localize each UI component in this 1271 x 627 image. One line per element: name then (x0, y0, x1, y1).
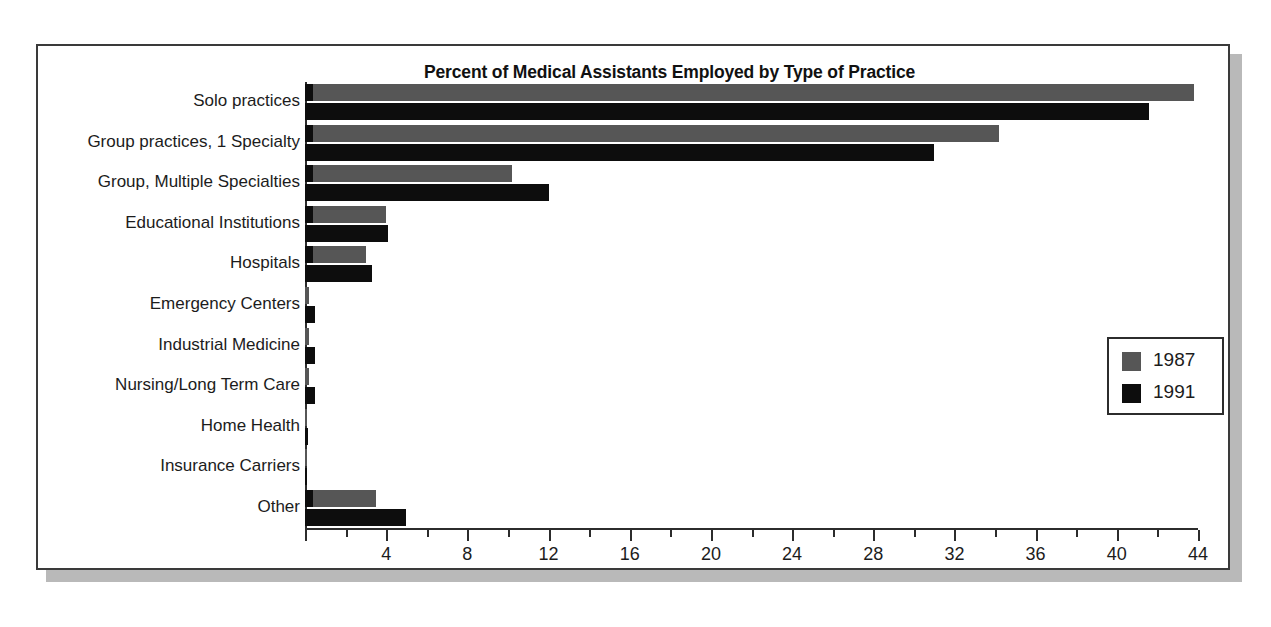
value-axis-tick-label: 24 (782, 544, 802, 565)
tick-major (792, 530, 794, 541)
value-axis-tick-label: 36 (1026, 544, 1046, 565)
plot-area: 48121620242832364044 (305, 82, 1198, 562)
tick-major (630, 530, 632, 541)
bar-1987 (305, 84, 1194, 101)
bar-1991 (305, 184, 549, 201)
tick-major (1198, 530, 1200, 541)
bar-1991 (305, 225, 388, 242)
value-axis-tick-label: 16 (620, 544, 640, 565)
tick-minor (995, 530, 997, 537)
legend-label-1987: 1987 (1153, 349, 1195, 371)
category-label: Home Health (201, 417, 300, 435)
tick-minor (914, 530, 916, 537)
value-axis-tick-label: 44 (1188, 544, 1208, 565)
category-label: Emergency Centers (150, 295, 300, 313)
bar-1991 (305, 103, 1149, 120)
bar-origin-cap (305, 125, 313, 142)
bar-1991 (305, 347, 315, 364)
tick-minor (1076, 530, 1078, 537)
tick-major (711, 530, 713, 541)
legend-swatch-1991 (1122, 384, 1141, 403)
tick-minor (833, 530, 835, 537)
value-axis-tick-label: 12 (539, 544, 559, 565)
tick-major (1117, 530, 1119, 541)
bar-1987 (305, 165, 512, 182)
category-label: Group practices, 1 Specialty (87, 133, 300, 151)
chart-legend: 1987 1991 (1107, 337, 1224, 415)
category-label: Solo practices (193, 92, 300, 110)
bar-1987 (305, 490, 376, 507)
bar-origin-cap (305, 246, 313, 263)
value-axis-tick-label: 8 (462, 544, 472, 565)
tick-major (386, 530, 388, 541)
bar-1987 (305, 206, 386, 223)
chart-frame: Percent of Medical Assistants Employed b… (36, 44, 1230, 570)
category-label: Nursing/Long Term Care (115, 376, 300, 394)
tick-major (873, 530, 875, 541)
bar-1991 (305, 387, 315, 404)
bar-1987 (305, 409, 307, 426)
tick-major (954, 530, 956, 541)
chart-title: Percent of Medical Assistants Employed b… (424, 62, 915, 83)
bar-1991 (305, 306, 315, 323)
category-label: Insurance Carriers (160, 457, 300, 475)
bar-1987 (305, 246, 366, 263)
tick-major (305, 530, 307, 541)
bar-1987 (305, 328, 309, 345)
tick-minor (346, 530, 348, 537)
tick-major (549, 530, 551, 541)
bar-origin-cap (305, 206, 313, 223)
category-axis-labels: Solo practicesGroup practices, 1 Special… (48, 82, 300, 528)
page-root: Percent of Medical Assistants Employed b… (0, 0, 1271, 627)
bar-1987 (305, 368, 309, 385)
legend-label-1991: 1991 (1153, 381, 1195, 403)
tick-minor (427, 530, 429, 537)
bar-origin-cap (305, 84, 313, 101)
value-axis-tick-label: 20 (701, 544, 721, 565)
bar-1991 (305, 509, 406, 526)
tick-minor (1157, 530, 1159, 537)
category-label: Educational Institutions (125, 214, 300, 232)
bar-1991 (305, 428, 308, 445)
value-axis-tick-label: 40 (1107, 544, 1127, 565)
tick-major (1036, 530, 1038, 541)
tick-minor (752, 530, 754, 537)
bar-1991 (305, 265, 372, 282)
legend-swatch-1987 (1122, 352, 1141, 371)
bar-origin-cap (305, 490, 313, 507)
category-label: Hospitals (230, 254, 300, 272)
bar-1991 (305, 468, 307, 485)
tick-minor (508, 530, 510, 537)
bar-1991 (305, 144, 934, 161)
value-axis-tick-label: 4 (381, 544, 391, 565)
category-label: Other (257, 498, 300, 516)
value-axis-tick-label: 28 (863, 544, 883, 565)
bar-1987 (305, 287, 309, 304)
bar-1987 (305, 449, 307, 466)
tick-major (467, 530, 469, 541)
value-axis-tick-label: 32 (944, 544, 964, 565)
tick-minor (589, 530, 591, 537)
category-label: Industrial Medicine (158, 336, 300, 354)
category-label: Group, Multiple Specialties (98, 173, 300, 191)
bar-1987 (305, 125, 999, 142)
bar-origin-cap (305, 165, 313, 182)
tick-minor (670, 530, 672, 537)
